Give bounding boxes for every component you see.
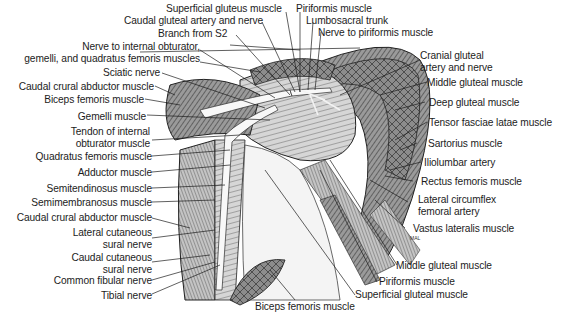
label-cranial-gluteal-line1: Cranial gluteal <box>420 50 484 61</box>
label-lumbosacral-trunk: Lumbosacral trunk <box>306 15 388 26</box>
label-biceps-femoris-bottom: Biceps femoris muscle <box>255 301 355 312</box>
label-iliolumbar-artery: Iliolumbar artery <box>424 157 495 168</box>
label-tibial-nerve: Tibial nerve <box>40 290 152 301</box>
label-caudal-cutaneous-sural-line2: sural nerve <box>40 264 152 275</box>
label-caudal-crural-abductor-bottom: Caudal crural abductor muscle <box>0 212 152 223</box>
label-lateral-cutaneous-sural-line2: sural nerve <box>40 239 152 250</box>
label-caudal-gluteal-artery-nerve: Caudal gluteal artery and nerve <box>124 15 263 26</box>
label-semimembranosus: Semimembranosus muscle <box>0 197 152 208</box>
label-piriformis-muscle-top: Piriformis muscle <box>296 3 372 14</box>
label-nerve-internal-obturator-line2: gemelli, and quadratus femoris muscles <box>10 53 200 64</box>
label-caudal-cutaneous-sural-line1: Caudal cutaneous <box>40 252 152 263</box>
label-superficial-gluteus-muscle: Superficial gluteus muscle <box>166 3 282 14</box>
label-nerve-to-piriformis: Nerve to piriformis muscle <box>318 27 433 38</box>
label-quadratus-femoris: Quadratus femoris muscle <box>10 151 152 162</box>
label-caudal-crural-abductor-top: Caudal crural abductor muscle <box>0 81 154 92</box>
anatomy-figure: MAL <box>0 0 567 318</box>
label-sciatic-nerve: Sciatic nerve <box>40 67 160 78</box>
label-sartorius: Sartorius muscle <box>428 138 502 149</box>
label-lateral-cutaneous-sural-line1: Lateral cutaneous <box>40 227 152 238</box>
label-lateral-circumflex-line2: femoral artery <box>418 206 479 217</box>
label-deep-gluteal: Deep gluteal muscle <box>429 97 519 108</box>
label-semitendinosus: Semitendinosus muscle <box>10 183 152 194</box>
label-middle-gluteal-bottom: Middle gluteal muscle <box>396 260 492 271</box>
label-superficial-gluteal-bottom: Superficial gluteal muscle <box>355 289 468 300</box>
label-vastus-lateralis: Vastus lateralis muscle <box>413 223 514 234</box>
label-tendon-internal-obturator-line2: obturator muscle <box>40 138 150 149</box>
label-nerve-internal-obturator-line1: Nerve to internal obturator, <box>72 41 200 52</box>
label-tensor-fasciae-latae: Tensor fasciae latae muscle <box>429 117 552 128</box>
label-biceps-femoris-top: Biceps femoris muscle <box>10 94 144 105</box>
label-lateral-circumflex-line1: Lateral circumflex <box>418 194 496 205</box>
label-branch-from-s2: Branch from S2 <box>158 28 227 39</box>
label-adductor: Adductor muscle <box>40 167 152 178</box>
label-common-fibular-nerve: Common fibular nerve <box>20 275 152 286</box>
label-rectus-femoris: Rectus femoris muscle <box>421 176 522 187</box>
label-middle-gluteal-top: Middle gluteal muscle <box>427 77 523 88</box>
artist-signature: MAL <box>410 235 421 241</box>
label-piriformis-bottom: Piriformis muscle <box>379 276 455 287</box>
label-gemelli: Gemelli muscle <box>40 111 146 122</box>
label-tendon-internal-obturator-line1: Tendon of internal <box>40 126 150 137</box>
label-cranial-gluteal-line2: artery and nerve <box>420 62 493 73</box>
